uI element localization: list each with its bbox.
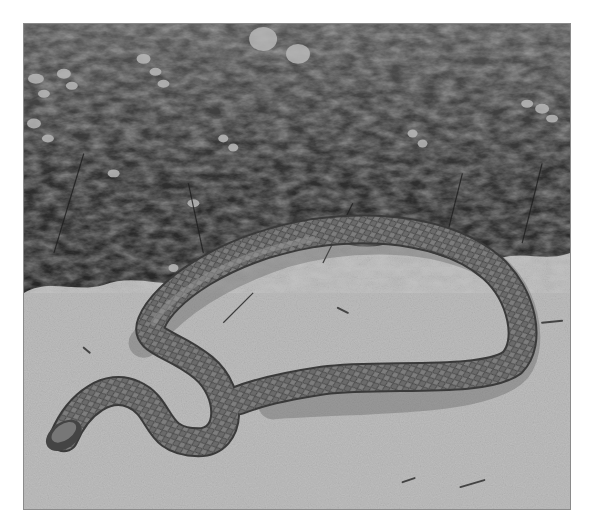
photograph — [23, 23, 571, 510]
snake-photo — [24, 24, 570, 509]
